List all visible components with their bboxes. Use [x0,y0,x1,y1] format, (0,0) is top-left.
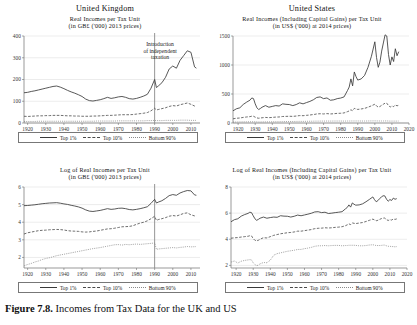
svg-text:6: 6 [225,210,228,216]
panel-uk-subtitle-line1: Real Incomes per Tax Unit [2,16,208,23]
plot-svg-us-log: 2468192019301940195019601970198019902000… [209,182,415,282]
legend-us-log: Top 1% Top 10% Bottom 90% [225,282,405,293]
svg-text:500: 500 [222,90,230,96]
svg-text:2010: 2010 [186,271,197,277]
svg-text:1950: 1950 [282,271,293,277]
svg-text:4: 4 [225,236,228,242]
svg-text:300: 300 [13,54,21,60]
svg-text:1930: 1930 [40,271,51,277]
panel-us-subtitle-line1: Real Incomes (Including Capital Gains) p… [209,16,415,23]
svg-text:1970: 1970 [113,126,124,132]
legend-item-top1: Top 1% [40,135,76,141]
svg-text:400: 400 [13,32,21,38]
figure-caption-text: Incomes from Tax Data for the UK and US [56,303,237,314]
legend-item-top1: Top 1% [247,135,283,141]
plot-uk-levels: 0100200300400192019301940195019601970198… [2,31,208,137]
svg-text:1500: 1500 [219,32,230,38]
svg-text:4: 4 [18,219,21,225]
plot-us-levels: 0500100015001920193019401950196019701980… [209,31,415,137]
svg-text:2: 2 [225,262,228,268]
figure-page: United Kingdom Real Incomes per Tax Unit… [0,0,417,325]
plot-svg-us-levels: 0500100015001920193019401950196019701980… [209,31,415,137]
svg-text:taxation: taxation [151,54,169,60]
legend-item-top10: Top 10% [83,285,122,291]
legend-us-levels: Top 1% Top 10% Bottom 90% [225,132,405,143]
svg-text:1000: 1000 [219,61,230,67]
panel-us-levels: United States Real Incomes (Including Ca… [209,4,415,137]
legend-swatch-top10-icon [83,287,100,288]
panel-us-log-subtitle-line1: Log of Real Incomes (Including Capital G… [209,167,415,174]
legend-label-top1: Top 1% [267,285,284,291]
svg-text:1960: 1960 [301,126,312,132]
svg-text:2010: 2010 [385,271,396,277]
svg-text:200: 200 [13,76,21,82]
panel-us-log-subtitle-line2: (in US$ ('000) at 2014 prices) [209,174,415,181]
svg-text:1970: 1970 [113,271,124,277]
panel-us-log: Log of Real Incomes (Including Capital G… [209,167,415,282]
svg-text:5: 5 [18,201,21,207]
legend-label-top10: Top 10% [310,135,329,141]
legend-label-top10: Top 10% [103,285,122,291]
legend-label-bottom90: Bottom 90% [356,285,383,291]
legend-swatch-bottom90-icon [336,137,353,138]
legend-swatch-top1-icon [247,287,264,288]
legend-uk-log: Top 1% Top 10% Bottom 90% [18,282,198,293]
legend-label-top1: Top 1% [60,285,77,291]
svg-text:0: 0 [18,119,21,125]
svg-text:1940: 1940 [265,271,276,277]
legend-label-top1: Top 1% [267,135,284,141]
svg-text:1990: 1990 [352,126,363,132]
svg-text:1960: 1960 [95,126,106,132]
svg-text:0: 0 [227,119,230,125]
legend-item-top1: Top 1% [40,285,76,291]
svg-text:1990: 1990 [149,271,160,277]
panel-uk-log: Log of Real Incomes per Tax Unit (in GB£… [2,167,208,282]
panel-us-subtitle-line2: (in US$ ('000) at 2014 prices) [209,23,415,30]
legend-swatch-top1-icon [247,137,264,138]
legend-swatch-top1-icon [40,137,57,138]
svg-text:1940: 1940 [59,126,70,132]
svg-text:2020: 2020 [402,271,413,277]
svg-text:1960: 1960 [299,271,310,277]
svg-text:1950: 1950 [77,126,88,132]
legend-item-bottom90: Bottom 90% [129,135,175,141]
svg-text:2000: 2000 [370,126,381,132]
figure-caption: Figure 7.8. Incomes from Tax Data for th… [5,303,412,314]
panel-uk-subtitle-line2: (in GB£ ('000) 2013 prices) [2,23,208,30]
svg-text:2020: 2020 [404,126,415,132]
svg-text:1920: 1920 [22,126,33,132]
panel-us-country-title: United States [209,4,415,14]
plot-us-log: 2468192019301940195019601970198019902000… [209,182,415,282]
svg-text:1970: 1970 [318,126,329,132]
svg-text:100: 100 [13,98,21,104]
legend-swatch-bottom90-icon [129,287,146,288]
svg-text:Introduction: Introduction [146,41,174,47]
legend-item-bottom90: Bottom 90% [129,285,175,291]
svg-text:1930: 1930 [40,126,51,132]
legend-swatch-top10-icon [290,137,307,138]
legend-swatch-top10-icon [290,287,307,288]
legend-label-top1: Top 1% [60,135,77,141]
svg-text:1980: 1980 [333,271,344,277]
svg-text:6: 6 [18,184,21,190]
svg-text:1960: 1960 [95,271,106,277]
svg-text:2: 2 [18,254,21,260]
svg-text:1920: 1920 [231,271,242,277]
legend-item-bottom90: Bottom 90% [336,135,382,141]
svg-text:1990: 1990 [350,271,361,277]
legend-swatch-bottom90-icon [129,137,146,138]
svg-text:2010: 2010 [387,126,398,132]
svg-text:8: 8 [225,184,228,190]
svg-text:1980: 1980 [335,126,346,132]
svg-text:1940: 1940 [59,271,70,277]
legend-label-bottom90: Bottom 90% [149,135,176,141]
svg-text:2000: 2000 [368,271,379,277]
svg-text:1980: 1980 [131,271,142,277]
svg-text:2000: 2000 [167,271,178,277]
panel-uk-log-subtitle-line1: Log of Real Incomes per Tax Unit [2,167,208,174]
legend-label-top10: Top 10% [310,285,329,291]
svg-text:1920: 1920 [22,271,33,277]
legend-label-bottom90: Bottom 90% [356,135,383,141]
svg-text:1940: 1940 [267,126,278,132]
panel-uk-country-title: United Kingdom [2,4,208,14]
